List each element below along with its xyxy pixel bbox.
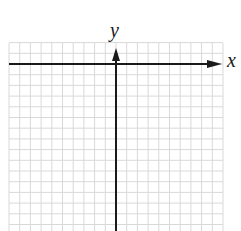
y-axis-arrow-icon [112,48,120,61]
x-axis-arrow-icon [207,60,222,68]
y-axis-label: y [110,20,119,40]
x-axis-label: x [227,50,236,70]
coordinate-plane [0,0,241,231]
